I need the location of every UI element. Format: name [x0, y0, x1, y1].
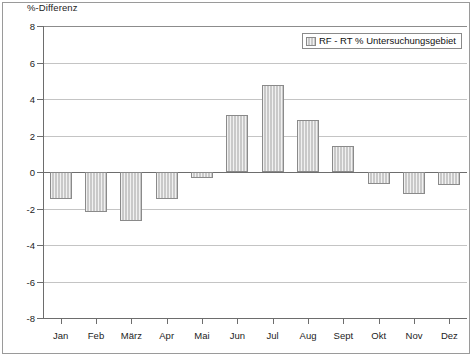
gridline--4: [43, 245, 467, 246]
x-tick-aug: [308, 318, 309, 324]
x-tick-label-jul: Jul: [267, 330, 279, 341]
bar-apr: [156, 172, 178, 199]
x-tick-label-nov: Nov: [406, 330, 423, 341]
x-tick-label-okt: Okt: [371, 330, 386, 341]
bar-jan: [50, 172, 72, 199]
x-tick-jul: [273, 318, 274, 324]
x-tick-mai: [202, 318, 203, 324]
y-tick-8: [37, 26, 43, 27]
bar-aug: [297, 120, 319, 172]
bar-nov: [403, 172, 425, 194]
y-tick-6: [37, 63, 43, 64]
x-tick-sept: [343, 318, 344, 324]
y-tick-0: [37, 172, 43, 173]
gridline--6: [43, 282, 467, 283]
y-tick-4: [37, 99, 43, 100]
legend-swatch-icon: [306, 37, 316, 46]
bar-mai: [191, 172, 213, 178]
x-tick-dez: [449, 318, 450, 324]
y-tick-label: 6: [9, 57, 35, 68]
bar-feb: [85, 172, 107, 212]
x-tick-label-jun: Jun: [230, 330, 245, 341]
x-tick-apr: [167, 318, 168, 324]
y-axis-line: [43, 26, 44, 318]
y-tick-label: 0: [9, 167, 35, 178]
bar-okt: [368, 172, 390, 184]
y-tick-label: -2: [9, 203, 35, 214]
x-tick-jun: [237, 318, 238, 324]
y-tick-label: 4: [9, 94, 35, 105]
bar-sept: [332, 146, 354, 172]
x-tick-label-märz: März: [121, 330, 142, 341]
y-tick-label: 2: [9, 130, 35, 141]
x-tick-märz: [131, 318, 132, 324]
gridline-2: [43, 136, 467, 137]
x-tick-feb: [96, 318, 97, 324]
bar-dez: [438, 172, 460, 185]
x-tick-label-aug: Aug: [300, 330, 317, 341]
x-tick-label-apr: Apr: [159, 330, 174, 341]
y-tick-label: -4: [9, 240, 35, 251]
gridline-4: [43, 99, 467, 100]
x-tick-label-dez: Dez: [441, 330, 458, 341]
x-axis-line: [43, 318, 467, 319]
legend-label: RF - RT % Untersuchungsgebiet: [319, 36, 456, 46]
gridline-6: [43, 63, 467, 64]
gridline-8: [43, 26, 467, 27]
y-tick-2: [37, 136, 43, 137]
x-tick-label-sept: Sept: [334, 330, 354, 341]
x-tick-nov: [414, 318, 415, 324]
y-tick--6: [37, 282, 43, 283]
chart-container: %-Differenz 86420-2-4-6-8 JanFebMärzAprM…: [0, 0, 473, 357]
x-tick-jan: [61, 318, 62, 324]
y-axis-labels: 86420-2-4-6-8: [5, 0, 35, 357]
bar-jul: [262, 85, 284, 172]
x-tick-label-jan: Jan: [53, 330, 68, 341]
y-tick--4: [37, 245, 43, 246]
y-tick-label: -6: [9, 276, 35, 287]
bar-jun: [226, 115, 248, 172]
x-tick-okt: [379, 318, 380, 324]
y-tick-label: 8: [9, 21, 35, 32]
x-tick-label-mai: Mai: [194, 330, 209, 341]
y-tick-label: -8: [9, 313, 35, 324]
chart-legend: RF - RT % Untersuchungsgebiet: [302, 33, 462, 49]
bar-märz: [120, 172, 142, 221]
plot-area: [43, 26, 467, 318]
x-tick-label-feb: Feb: [88, 330, 104, 341]
y-tick--2: [37, 209, 43, 210]
